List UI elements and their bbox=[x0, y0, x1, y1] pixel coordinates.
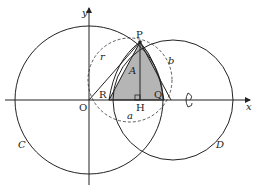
label-P: P bbox=[136, 29, 143, 40]
x-axis-label: x bbox=[246, 101, 252, 112]
geometry-diagram: y x P O R H Q A r a b C D bbox=[0, 0, 255, 193]
label-O: O bbox=[79, 102, 87, 113]
label-b: b bbox=[168, 55, 174, 66]
point-P bbox=[138, 40, 142, 44]
label-C: C bbox=[18, 139, 26, 150]
label-H: H bbox=[136, 102, 145, 113]
y-axis-label: y bbox=[81, 7, 88, 18]
label-Q: Q bbox=[154, 89, 162, 100]
label-a: a bbox=[127, 110, 133, 121]
label-R: R bbox=[99, 89, 107, 100]
label-D: D bbox=[215, 139, 224, 150]
label-A: A bbox=[128, 65, 136, 76]
label-r: r bbox=[100, 51, 106, 62]
